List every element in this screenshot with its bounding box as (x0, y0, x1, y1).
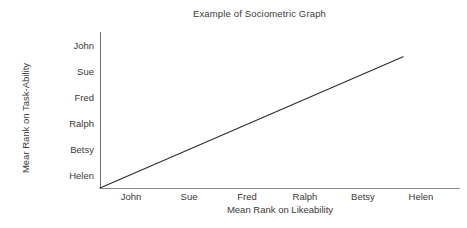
sociometric-graph-figure: Example of Sociometric Graph Mear Rank o… (0, 0, 467, 228)
data-series-layer (0, 0, 467, 228)
data-line-series (100, 57, 403, 188)
